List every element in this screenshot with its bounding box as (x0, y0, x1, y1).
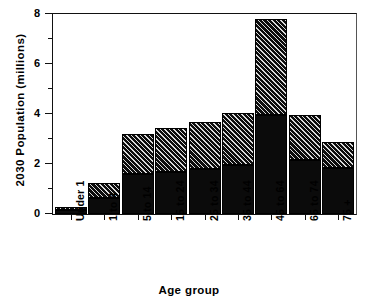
x-tick (271, 214, 272, 220)
x-tick-label: 1 to 4 (107, 192, 119, 221)
y-tick-major (45, 163, 52, 164)
x-tick-label: 35 to 44 (241, 180, 253, 221)
x-tick (104, 214, 105, 220)
bar-segment-hatched (289, 115, 321, 160)
y-tick-minor (48, 88, 52, 89)
bar-segment-hatched (222, 113, 254, 165)
x-tick (338, 214, 339, 220)
bar-segment-hatched (189, 122, 221, 169)
x-tick-label: 75 + (341, 199, 353, 221)
y-tick-label: 0 (22, 208, 40, 219)
y-tick-label: 8 (22, 8, 40, 19)
y-tick-minor (48, 188, 52, 189)
x-tick (305, 214, 306, 220)
bar-segment-hatched (122, 134, 154, 174)
x-tick (138, 214, 139, 220)
y-tick-major (45, 113, 52, 114)
y-tick-label: 4 (22, 108, 40, 119)
y-tick-minor (48, 38, 52, 39)
x-tick (238, 214, 239, 220)
bar-segment-hatched (155, 128, 187, 172)
y-tick-label: 2 (22, 158, 40, 169)
x-axis-title: Age group (0, 284, 378, 296)
x-tick-label: Under 1 (74, 181, 86, 222)
bar-chart: 2030 Population (millions) 02468 Under 1… (0, 0, 378, 304)
bar-segment-hatched (255, 19, 287, 115)
x-tick (71, 214, 72, 220)
x-tick-label: 15 to 24 (174, 180, 186, 221)
y-tick-major (45, 213, 52, 214)
x-tick-label: 25 to 34 (208, 180, 220, 221)
x-tick (171, 214, 172, 220)
x-tick-label: 65 to 74 (308, 180, 320, 221)
y-tick-label: 6 (22, 58, 40, 69)
x-tick (205, 214, 206, 220)
x-tick-label: 45 to 64 (274, 180, 286, 221)
bar-segment-hatched (322, 142, 354, 168)
y-tick-minor (48, 138, 52, 139)
x-tick-label: 5 to 14 (141, 186, 153, 221)
y-tick-major (45, 63, 52, 64)
y-tick-major (45, 13, 52, 14)
